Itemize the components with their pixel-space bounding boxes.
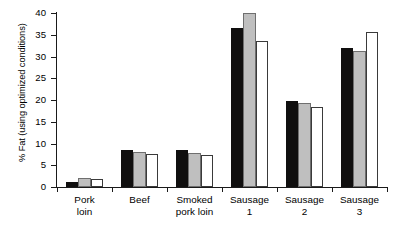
bar [366, 32, 378, 187]
bar [256, 41, 268, 187]
x-axis-tick [277, 187, 278, 192]
x-axis-tick [332, 187, 333, 192]
x-axis-tick [387, 187, 388, 192]
y-axis-tick-label: 20 [0, 95, 46, 105]
bar [146, 154, 158, 187]
x-axis-category-label: Sausage 3 [326, 194, 393, 217]
bar [243, 13, 255, 187]
bar [231, 28, 243, 187]
bar [66, 182, 78, 187]
y-axis-tick-label: 10 [0, 139, 46, 149]
x-axis-tick [57, 187, 58, 192]
bar [91, 179, 103, 187]
bar [78, 178, 90, 187]
y-axis-tick-label: 5 [0, 160, 46, 170]
y-axis-tick-label: 15 [0, 117, 46, 127]
y-axis-tick-label: 40 [0, 8, 46, 18]
y-axis-tick-label: 35 [0, 30, 46, 40]
plot-area [57, 13, 387, 187]
bar [121, 150, 133, 187]
bar [341, 48, 353, 187]
bar [298, 103, 310, 187]
y-axis-tick-label: 0 [0, 182, 46, 192]
bar [133, 152, 145, 187]
bar [176, 150, 188, 187]
bar-chart: % Fat (using optimized conditions) 05101… [0, 0, 395, 232]
bars-layer [57, 13, 387, 187]
y-axis-tick-label: 30 [0, 52, 46, 62]
y-axis-tick-label: 25 [0, 73, 46, 83]
x-axis-tick [167, 187, 168, 192]
x-axis-tick [222, 187, 223, 192]
bar [353, 51, 365, 187]
bar [201, 155, 213, 187]
x-axis-tick [112, 187, 113, 192]
bar [311, 107, 323, 187]
bar [188, 153, 200, 187]
bar [286, 101, 298, 187]
